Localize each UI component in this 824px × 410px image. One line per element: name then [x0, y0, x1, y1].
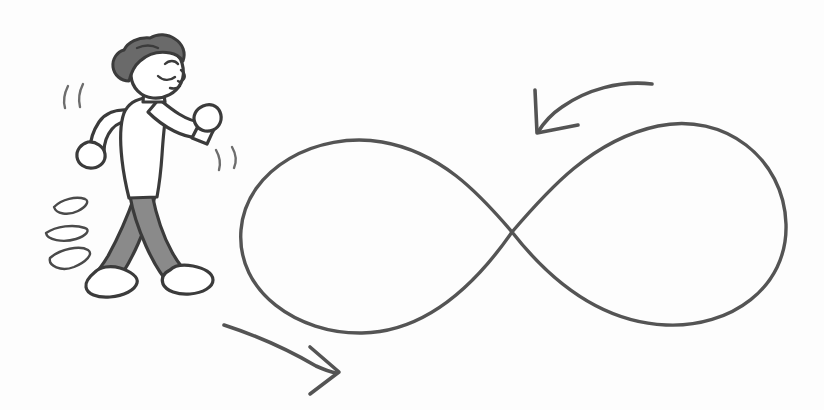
back-fist	[77, 142, 105, 168]
motion-lines-back	[64, 84, 83, 108]
top-arrow	[535, 83, 652, 133]
motion-lines-front	[216, 147, 236, 170]
motion-line-back-1	[64, 86, 68, 108]
infinity-right-loop	[512, 123, 786, 325]
speed-mark-1	[54, 198, 87, 214]
sketch-illustration	[0, 0, 824, 410]
front-fist	[194, 105, 221, 132]
bottom-arrow	[224, 325, 339, 394]
back-shoe	[86, 267, 137, 298]
bottom-arrow-shaft	[224, 325, 336, 373]
motion-line-front-2	[232, 147, 236, 168]
front-shoe	[162, 265, 213, 294]
motion-line-front-1	[216, 150, 220, 170]
motion-line-back-2	[79, 84, 83, 107]
illustration-canvas: Hand-drawn line illustration of a person…	[0, 0, 824, 410]
speed-mark-3	[50, 248, 90, 269]
infinity-symbol-group	[241, 123, 786, 333]
infinity-left-loop	[241, 140, 512, 333]
speed-mark-2	[46, 226, 88, 241]
top-arrow-shaft	[538, 83, 652, 132]
walking-person	[77, 35, 221, 297]
speed-marks-group	[46, 198, 90, 269]
